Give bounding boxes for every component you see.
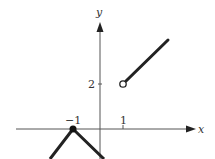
tick-label-y-2: 2 [88, 78, 95, 91]
y-axis-arrow-icon [97, 22, 104, 32]
left-piece-line [50, 129, 104, 159]
tick-label-x-1: 1 [120, 114, 127, 127]
x-axis-label: x [198, 123, 205, 136]
x-axis-arrow-icon [186, 126, 196, 133]
tick-label-x-neg1: −1 [65, 114, 81, 127]
function-graph: x y 1 −1 2 [0, 0, 215, 159]
open-point-marker [120, 81, 126, 87]
right-piece-line [126, 40, 168, 81]
y-axis-label: y [95, 6, 103, 19]
closed-point-marker [70, 126, 77, 133]
